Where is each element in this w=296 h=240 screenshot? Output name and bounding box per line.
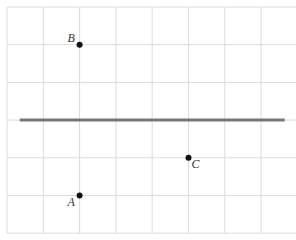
point-marker <box>77 42 83 48</box>
point-label: B <box>68 31 76 45</box>
point-marker <box>77 193 83 199</box>
point-a: A <box>67 193 83 209</box>
point-c: C <box>186 155 201 171</box>
point-label: C <box>192 157 201 171</box>
point-label: A <box>67 195 76 209</box>
grid-diagram: BCA <box>0 0 296 240</box>
